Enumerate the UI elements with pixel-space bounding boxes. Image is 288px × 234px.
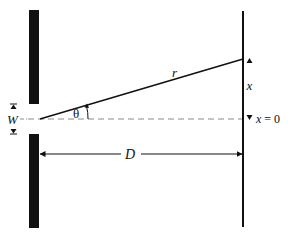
top-barrier <box>29 10 39 104</box>
slit-width-arrow-bottom-icon <box>11 129 17 134</box>
origin-label: x = 0 <box>255 112 280 126</box>
slit-width-label: W <box>7 112 19 127</box>
ray-line <box>40 59 243 119</box>
angle-arc <box>87 106 89 119</box>
distance-label: D <box>124 147 135 162</box>
bottom-barrier <box>29 134 39 228</box>
angle-label: θ <box>73 106 79 121</box>
position-label: x <box>246 78 253 93</box>
position-arrow-down-icon <box>247 115 253 120</box>
slit-width-arrow-top-icon <box>11 105 17 110</box>
slit-diffraction-diagram: θ r W D x x = 0 <box>0 0 288 234</box>
position-arrow-up-icon <box>247 58 253 63</box>
